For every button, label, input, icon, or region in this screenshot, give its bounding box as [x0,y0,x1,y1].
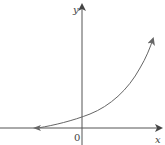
origin-label: 0 [74,132,80,143]
y-axis-label: y [72,4,79,15]
graph-canvas: y 0 x [0,0,165,145]
x-axis-label: x [155,134,161,145]
exponential-curve [38,39,153,128]
